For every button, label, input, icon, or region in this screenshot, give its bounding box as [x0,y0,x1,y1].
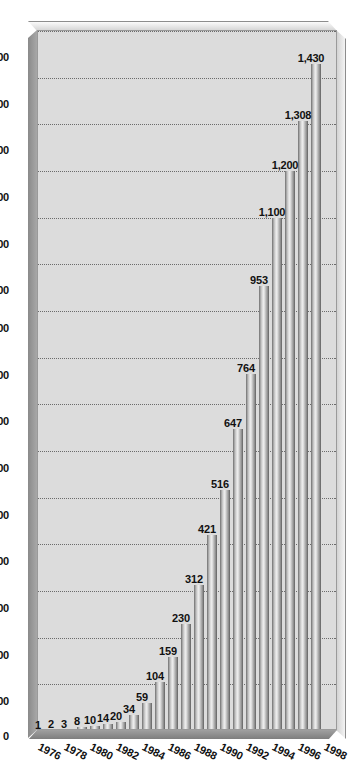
bar-value-label: 1,430 [298,52,325,64]
category-label-1996: 1996 [297,741,324,762]
bar-1997 [311,64,321,730]
bar-1989 [207,535,217,730]
bar-value-label: 1,200 [272,159,299,171]
tick-label-500: 500 [0,508,9,520]
category-label-1986: 1986 [166,741,193,762]
bar-value-label: 1,308 [285,109,312,121]
bar-value-label: 1 [35,719,41,731]
category-label-1982: 1982 [114,741,141,762]
bar-1985 [155,682,165,730]
bar-value-label: 647 [224,417,242,429]
bar-1993 [259,286,269,730]
plot-area [37,30,337,730]
bar-1988 [194,585,204,730]
bar-value-label: 20 [110,710,122,722]
tick-label-700: 700 [0,415,9,427]
bar-1980 [90,726,100,730]
bar-value-label: 8 [74,715,80,727]
bar-value-label: 421 [198,523,216,535]
category-label-1994: 1994 [271,741,298,762]
bar-1991 [233,429,243,730]
tick-label-1,100: 1,100 [0,237,9,249]
category-label-1988: 1988 [192,741,219,762]
bar-1983 [129,715,139,730]
tick-label-0: 0 [3,730,9,742]
bar-value-label: 2 [48,718,54,730]
tick-label-900: 900 [0,322,9,334]
category-label-1984: 1984 [140,741,167,762]
bar-value-label: 516 [211,478,229,490]
bar-1979 [77,727,87,730]
tick-label-1,000: 1,000 [0,284,9,296]
category-label-1980: 1980 [88,741,115,762]
category-label-1976: 1976 [36,741,63,762]
tick-label-600: 600 [0,462,9,474]
bar-value-label: 3 [61,718,67,730]
category-label-1992: 1992 [245,741,272,762]
frame-bevel-top [336,30,346,739]
bar-value-label: 1,100 [259,206,286,218]
tick-label-200: 200 [0,648,9,660]
bar-value-label: 764 [237,362,255,374]
bar-1987 [181,624,191,730]
bar-1981 [103,724,113,730]
tick-label-1,400: 1,400 [0,97,9,109]
tick-label-100: 100 [0,695,9,707]
bar-value-label: 14 [97,712,109,724]
bar-1992 [246,374,256,730]
bar-value-label: 312 [185,573,203,585]
bar-value-label: 230 [172,612,190,624]
bar-1996 [298,121,308,730]
bar-1994 [272,218,282,730]
bar-1995 [285,171,295,730]
tick-label-800: 800 [0,368,9,380]
bar-value-label: 953 [250,274,268,286]
category-label-1978: 1978 [62,741,89,762]
frame-bevel-right [29,730,337,739]
bar-value-label: 10 [84,714,96,726]
category-label-1998: 1998 [323,741,350,762]
category-label-1990: 1990 [219,741,246,762]
rotated-chart-wrapper: 1238101420345910415923031242151664776495… [0,0,351,782]
tick-label-1,300: 1,300 [0,144,9,156]
bar-value-label: 34 [123,703,135,715]
tick-label-300: 300 [0,602,9,614]
tick-label-1,500: 1,500 [0,51,9,63]
bar-value-label: 59 [136,691,148,703]
bars-group [38,31,336,729]
bar-value-label: 104 [146,670,164,682]
chart-3d-frame [37,30,337,730]
bar-value-label: 159 [159,645,177,657]
frame-bevel-bottom [28,30,37,738]
bar-1982 [116,722,126,730]
bar-1984 [142,703,152,730]
bar-1990 [220,490,230,730]
bar-1986 [168,657,178,730]
tick-label-400: 400 [0,555,9,567]
tick-label-1,200: 1,200 [0,191,9,203]
